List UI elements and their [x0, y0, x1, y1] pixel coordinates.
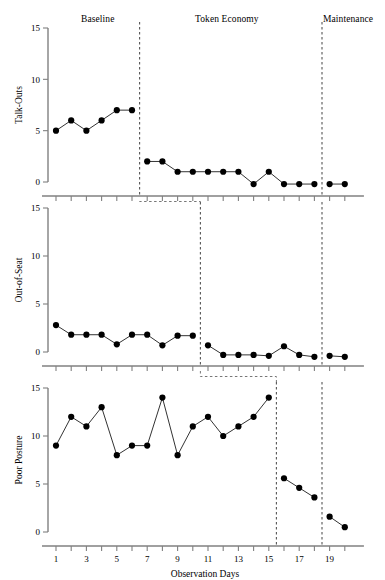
data-point: [83, 128, 89, 134]
data-point: [266, 353, 272, 359]
data-point: [175, 169, 181, 175]
data-point: [53, 322, 59, 328]
phase-connector-line: [200, 371, 276, 382]
y-tick-label: 10: [31, 251, 41, 261]
panel-ylabel-2: Poor Posture: [14, 436, 24, 485]
data-line-baseline: [56, 325, 193, 345]
x-tick-label: 19: [325, 554, 335, 564]
x-tick-label: 7: [145, 554, 150, 564]
phase-header-token-economy: Token Economy: [195, 14, 259, 24]
x-tick-label: 11: [204, 554, 213, 564]
data-point: [235, 169, 241, 175]
data-point: [175, 333, 181, 339]
data-point: [129, 107, 135, 113]
y-tick-label: 5: [36, 479, 41, 489]
data-point: [68, 332, 74, 338]
data-point: [251, 181, 257, 187]
data-point: [266, 395, 272, 401]
data-point: [281, 343, 287, 349]
data-point: [159, 342, 165, 348]
data-point: [235, 423, 241, 429]
phase-header-maintenance: Maintenance: [323, 14, 373, 24]
data-point: [296, 181, 302, 187]
x-tick-label: 13: [234, 554, 244, 564]
data-point: [205, 342, 211, 348]
data-point: [251, 414, 257, 420]
data-point: [99, 404, 105, 410]
phase-header-baseline: Baseline: [81, 14, 115, 24]
data-point: [114, 452, 120, 458]
data-line-baseline: [56, 110, 132, 131]
panel-2: 051015Poor Posture: [14, 382, 364, 551]
data-point: [281, 475, 287, 481]
y-tick-label: 0: [36, 527, 41, 537]
data-point: [53, 443, 59, 449]
panel-1: 051015Out-of-Seat: [14, 202, 364, 371]
data-point: [327, 514, 333, 520]
data-point: [190, 423, 196, 429]
y-tick-label: 10: [31, 431, 41, 441]
y-tick-label: 10: [31, 75, 41, 85]
y-tick-label: 5: [36, 299, 41, 309]
y-tick-label: 5: [36, 126, 41, 136]
panel-ylabel-1: Out-of-Seat: [14, 257, 24, 302]
data-point: [342, 524, 348, 530]
data-point: [83, 423, 89, 429]
chart-canvas: 051015Talk-Outs051015Out-of-Seat051015Po…: [0, 0, 385, 580]
data-point: [53, 128, 59, 134]
x-tick-label: 3: [84, 554, 89, 564]
data-point: [190, 333, 196, 339]
x-tick-label: 9: [175, 554, 180, 564]
x-tick-label: 15: [264, 554, 274, 564]
data-line-token-economy: [147, 161, 314, 184]
x-axis-title: Observation Days: [171, 569, 240, 579]
data-point: [311, 181, 317, 187]
data-point: [342, 181, 348, 187]
data-point: [266, 169, 272, 175]
data-point: [205, 414, 211, 420]
data-point: [235, 352, 241, 358]
data-point: [159, 395, 165, 401]
panel-ylabel-0: Talk-Outs: [14, 86, 24, 124]
y-tick-label: 15: [31, 203, 41, 213]
data-point: [327, 181, 333, 187]
data-point: [114, 341, 120, 347]
data-point: [311, 354, 317, 360]
x-tick-label: 1: [54, 554, 59, 564]
data-point: [327, 353, 333, 359]
data-point: [296, 352, 302, 358]
data-point: [83, 332, 89, 338]
multiple-baseline-figure: 051015Talk-Outs051015Out-of-Seat051015Po…: [0, 0, 385, 580]
data-point: [129, 332, 135, 338]
y-tick-label: 15: [31, 23, 41, 33]
data-point: [205, 169, 211, 175]
data-point: [114, 107, 120, 113]
data-point: [220, 352, 226, 358]
x-tick-label: 5: [115, 554, 120, 564]
phase-connector-line: [140, 201, 201, 202]
y-tick-label: 0: [36, 347, 41, 357]
data-point: [159, 158, 165, 164]
data-point: [190, 169, 196, 175]
data-point: [68, 117, 74, 123]
data-point: [220, 433, 226, 439]
x-tick-label: 17: [295, 554, 305, 564]
data-point: [68, 414, 74, 420]
data-point: [251, 352, 257, 358]
data-point: [220, 169, 226, 175]
data-point: [99, 332, 105, 338]
data-point: [144, 332, 150, 338]
y-tick-label: 15: [31, 383, 41, 393]
data-point: [129, 443, 135, 449]
data-point: [144, 443, 150, 449]
data-point: [281, 181, 287, 187]
data-point: [311, 494, 317, 500]
data-point: [342, 354, 348, 360]
data-point: [99, 117, 105, 123]
y-tick-label: 0: [36, 177, 41, 187]
panel-0: 051015Talk-Outs: [14, 22, 364, 201]
data-point: [296, 485, 302, 491]
data-point: [175, 452, 181, 458]
data-point: [144, 158, 150, 164]
